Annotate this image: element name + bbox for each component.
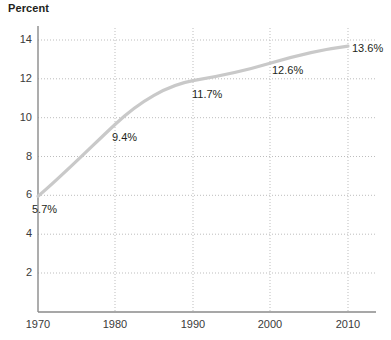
horizontal-gridlines — [38, 40, 375, 273]
xtick-label-1970: 1970 — [15, 318, 61, 330]
ytick-label-6: 6 — [10, 188, 32, 200]
ytick-label-12: 12 — [10, 72, 32, 84]
xtick-label-1990: 1990 — [170, 318, 216, 330]
point-label-1970: 5.7% — [32, 203, 57, 215]
point-label-2010: 13.6% — [352, 42, 383, 54]
point-label-1980: 9.4% — [112, 131, 137, 143]
plot-area — [0, 0, 391, 340]
point-label-2000: 12.6% — [272, 64, 303, 76]
xtick-label-1980: 1980 — [92, 318, 138, 330]
xtick-label-2010: 2010 — [325, 318, 371, 330]
ytick-label-8: 8 — [10, 150, 32, 162]
ytick-label-4: 4 — [10, 227, 32, 239]
point-label-1990: 11.7% — [192, 88, 222, 100]
xtick-label-2000: 2000 — [247, 318, 293, 330]
vertical-gridlines — [115, 28, 348, 312]
ytick-label-14: 14 — [10, 33, 32, 45]
chart-axes — [38, 26, 376, 312]
percent-line-chart: Percent 14 12 10 8 — [0, 0, 391, 340]
ytick-label-2: 2 — [10, 266, 32, 278]
ytick-label-10: 10 — [10, 111, 32, 123]
